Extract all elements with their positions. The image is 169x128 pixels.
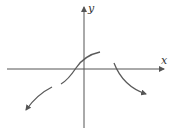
curve-middle-s-branch [61, 52, 100, 84]
function-graph: y x [0, 0, 169, 128]
y-axis-label: y [87, 2, 95, 15]
curve-lower-left-branch [26, 87, 52, 110]
x-axis-label: x [161, 54, 168, 67]
curve-right-branch [114, 63, 146, 94]
